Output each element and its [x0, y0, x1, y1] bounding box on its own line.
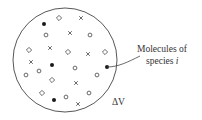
control-volume-boundary	[13, 8, 117, 112]
diamond-icon	[26, 47, 31, 52]
open-circle-icon	[64, 95, 68, 99]
open-circle-icon	[37, 69, 41, 73]
diamond-icon	[102, 49, 107, 54]
diamond-icon	[49, 77, 54, 82]
cross-icon	[76, 102, 80, 106]
species-i-molecules	[42, 22, 109, 102]
cross-icon	[79, 16, 83, 20]
open-circle-icon	[95, 73, 99, 77]
callout-line-1: Molecules of	[137, 44, 188, 54]
cross-icon	[74, 81, 78, 85]
cross-icon	[86, 52, 90, 56]
open-circle-icon	[88, 33, 92, 37]
cross-molecules	[29, 16, 90, 106]
open-circle-icon	[24, 73, 28, 77]
filled-dot-icon	[42, 22, 46, 26]
diamond-icon	[56, 15, 61, 20]
cross-icon	[29, 60, 33, 64]
filled-dot-icon	[50, 63, 54, 67]
diagram-canvas: Molecules of species i ΔV	[0, 0, 202, 120]
open-circle-icon	[73, 66, 77, 70]
cross-icon	[48, 46, 52, 50]
callout-line-2: species i	[146, 56, 179, 66]
diamond-icon	[39, 90, 44, 95]
open-circle-icon	[44, 33, 48, 37]
filled-dot-icon	[52, 98, 56, 102]
cross-icon	[68, 31, 72, 35]
open-circle-molecules	[24, 33, 99, 99]
callout-leader-line	[107, 56, 140, 67]
diamond-molecules	[26, 15, 107, 95]
volume-label: ΔV	[112, 97, 125, 107]
callout-species-variable: i	[176, 56, 179, 66]
callout-species-text: species	[146, 56, 176, 66]
open-circle-icon	[87, 91, 91, 95]
diamond-icon	[65, 49, 70, 54]
